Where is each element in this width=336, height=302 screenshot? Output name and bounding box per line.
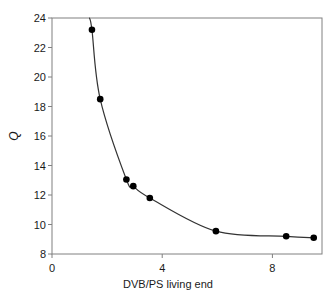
y-tick-label: 10: [20, 219, 46, 230]
y-tick-label: 24: [20, 13, 46, 24]
data-point: [123, 176, 130, 183]
y-tick-label: 14: [20, 160, 46, 171]
y-tick-label: 18: [20, 101, 46, 112]
data-curve: [89, 18, 313, 238]
data-point: [130, 183, 137, 190]
data-point: [213, 228, 220, 235]
y-tick-label: 22: [20, 42, 46, 53]
y-tick-label: 12: [20, 190, 46, 201]
data-point: [283, 233, 290, 240]
chart-figure: 81012141618202224 048 DVB/PS living end …: [0, 0, 336, 302]
y-tick-label: 16: [20, 131, 46, 142]
plot-canvas: [0, 0, 336, 302]
data-point: [89, 27, 96, 34]
x-tick-marks: [52, 254, 272, 258]
x-tick-label: 4: [159, 263, 165, 274]
x-tick-label: 0: [49, 263, 55, 274]
y-tick-marks: [48, 18, 52, 254]
x-tick-label: 8: [269, 263, 275, 274]
y-axis-label: Q: [8, 131, 20, 140]
y-tick-label: 8: [20, 249, 46, 260]
y-tick-label: 20: [20, 72, 46, 83]
data-point: [310, 234, 317, 241]
data-point: [97, 96, 104, 103]
x-axis-label: DVB/PS living end: [0, 279, 336, 290]
data-markers: [89, 27, 317, 242]
data-point: [147, 195, 154, 202]
